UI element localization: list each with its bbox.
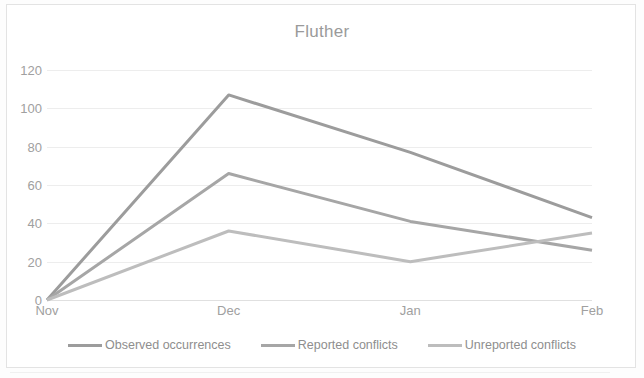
y-axis-tick-label: 60 bbox=[2, 179, 42, 192]
x-axis-tick-label: Nov bbox=[35, 303, 58, 318]
legend-item[interactable]: Reported conflicts bbox=[261, 338, 398, 352]
legend-label: Observed occurrences bbox=[105, 338, 231, 352]
legend-label: Reported conflicts bbox=[298, 338, 398, 352]
y-axis-tick-labels: 020406080100120 bbox=[0, 70, 42, 300]
y-axis-tick-label: 100 bbox=[2, 102, 42, 115]
plot-area bbox=[47, 70, 592, 300]
legend-color-swatch bbox=[68, 344, 102, 347]
chart-legend: Observed occurrencesReported conflictsUn… bbox=[0, 338, 644, 352]
legend-label: Unreported conflicts bbox=[465, 338, 576, 352]
x-axis-tick-label: Feb bbox=[581, 303, 603, 318]
series-line bbox=[47, 174, 592, 301]
y-axis-tick-label: 20 bbox=[2, 256, 42, 269]
x-axis-tick-labels: NovDecJanFeb bbox=[47, 303, 592, 323]
series-lines-group bbox=[47, 70, 592, 300]
page-bottom-edge bbox=[10, 372, 610, 373]
y-axis-tick-label: 120 bbox=[2, 64, 42, 77]
chart-container: Fluther 020406080100120 NovDecJanFeb Obs… bbox=[0, 0, 644, 378]
legend-item[interactable]: Unreported conflicts bbox=[428, 338, 576, 352]
x-axis-line bbox=[47, 300, 592, 301]
legend-color-swatch bbox=[261, 344, 295, 347]
x-axis-tick-label: Jan bbox=[400, 303, 421, 318]
chart-title: Fluther bbox=[0, 22, 644, 42]
legend-item[interactable]: Observed occurrences bbox=[68, 338, 231, 352]
y-axis-tick-label: 40 bbox=[2, 217, 42, 230]
x-axis-tick-label: Dec bbox=[217, 303, 240, 318]
y-axis-tick-label: 80 bbox=[2, 141, 42, 154]
legend-color-swatch bbox=[428, 344, 462, 347]
